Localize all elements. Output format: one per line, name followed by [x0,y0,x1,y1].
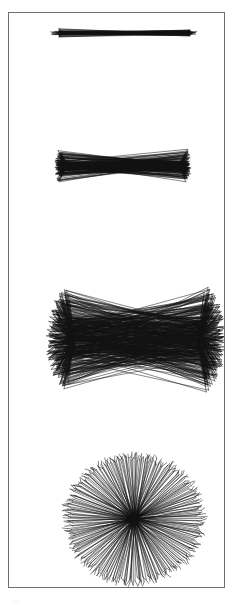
plate-marginalia: ·· [13,598,20,606]
figure-panels-svg [9,13,224,587]
panel-pinched-bowtie [55,149,191,181]
panel-wide-butterfly [47,287,224,392]
panel-thin-dumbbell [51,29,197,37]
figure-plate-frame [8,12,225,588]
figure-page: ·· [0,0,236,612]
panel-radial-starburst [62,452,207,587]
